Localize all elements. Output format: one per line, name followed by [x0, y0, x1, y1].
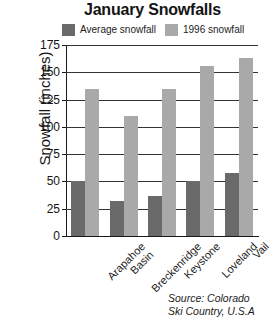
bars-layer — [66, 45, 258, 236]
y-tick-mark — [62, 127, 66, 128]
y-tick-label: 50 — [47, 176, 60, 186]
y-tick-mark — [62, 45, 66, 46]
bar — [162, 89, 176, 236]
y-tick-mark — [62, 100, 66, 101]
legend-entry-1996-snowfall: 1996 snowfall — [165, 24, 244, 36]
y-tick-mark — [62, 236, 66, 237]
snowfall-bar-chart: January Snowfalls Average snowfall 1996 … — [0, 0, 271, 328]
chart-legend: Average snowfall 1996 snowfall — [62, 24, 244, 36]
legend-label-average-snowfall: Average snowfall — [80, 24, 156, 36]
legend-swatch-1996-snowfall — [165, 24, 178, 36]
y-tick-mark — [62, 209, 66, 210]
y-tick-label: 125 — [40, 95, 60, 105]
x-axis-label-line: Loveland — [219, 240, 259, 280]
source-note: Source: Colorado Ski Country, U.S.A — [168, 292, 255, 318]
legend-swatch-average-snowfall — [62, 24, 75, 36]
legend-label-1996-snowfall: 1996 snowfall — [183, 24, 244, 36]
bar — [124, 116, 138, 236]
y-tick-label: 100 — [40, 122, 60, 132]
bar — [225, 173, 239, 236]
y-tick-label: 0 — [53, 231, 60, 241]
bar — [239, 58, 253, 236]
y-tick-mark — [62, 72, 66, 73]
bar — [110, 201, 124, 236]
bar — [85, 89, 99, 236]
x-axis-label: Loveland — [219, 240, 259, 280]
y-tick-label: 75 — [47, 149, 60, 159]
y-tick-label: 175 — [40, 40, 60, 50]
bar — [200, 66, 214, 236]
y-tick-label: 25 — [47, 204, 60, 214]
y-tick-label: 150 — [40, 67, 60, 77]
source-line-1: Source: Colorado — [168, 292, 255, 305]
x-axis-spine — [66, 236, 259, 237]
bar — [71, 181, 85, 236]
y-tick-mark — [62, 154, 66, 155]
bar — [148, 196, 162, 236]
plot-area — [66, 45, 258, 236]
legend-entry-average-snowfall: Average snowfall — [62, 24, 156, 36]
chart-title: January Snowfalls — [40, 1, 265, 19]
y-tick-mark — [62, 181, 66, 182]
bar — [186, 181, 200, 236]
source-line-2: Ski Country, U.S.A — [168, 305, 255, 318]
x-axis-label: ArapahoeBasin — [105, 240, 156, 291]
